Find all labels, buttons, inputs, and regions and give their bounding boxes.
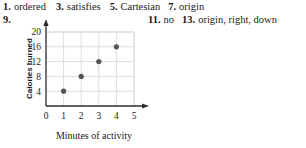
svg-text:1: 1: [61, 111, 66, 121]
answer-number: 3.: [56, 1, 64, 12]
answer-number: 13.: [182, 14, 195, 25]
answer-text: origin, right, down: [198, 14, 277, 25]
gridlines: [46, 32, 134, 106]
answer-number: 9.: [3, 14, 11, 25]
y-axis-title: Calories burned: [25, 37, 34, 101]
answer-text: Cartesian: [121, 1, 161, 12]
answer-text: origin: [179, 1, 204, 12]
answer-item-3: 3.satisfies: [56, 1, 101, 13]
svg-text:4: 4: [36, 87, 41, 97]
answer-item-13: 13.origin, right, down: [182, 14, 277, 26]
answer-row-1: 1.ordered3.satisfies5.Cartesian7.origin: [3, 1, 204, 13]
plot-canvas: 48121620 012345: [16, 20, 176, 148]
answer-number: 5.: [110, 1, 118, 12]
svg-text:3: 3: [96, 111, 101, 121]
answer-item-1: 1.ordered: [3, 1, 46, 13]
data-points: [61, 44, 119, 94]
x-tick-labels: 012345: [44, 111, 137, 121]
scatter-plot: 48121620 012345 Calories burned Minutes …: [16, 20, 176, 148]
answer-number: 7.: [168, 1, 176, 12]
answer-item-5: 5.Cartesian: [110, 1, 161, 13]
x-axis-title: Minutes of activity: [34, 130, 154, 141]
answer-text: satisfies: [67, 1, 101, 12]
svg-text:8: 8: [36, 72, 41, 82]
answer-item-7: 7.origin: [168, 1, 204, 13]
svg-text:0: 0: [44, 111, 49, 121]
answer-number: 1.: [3, 1, 11, 12]
answer-row-2-left: 9.: [3, 14, 11, 26]
svg-text:4: 4: [114, 111, 119, 121]
answer-text: ordered: [14, 1, 46, 12]
axis-lines: [43, 20, 149, 109]
svg-text:2: 2: [79, 111, 84, 121]
svg-text:5: 5: [132, 111, 137, 121]
answer-item-9: 9.: [3, 14, 11, 26]
